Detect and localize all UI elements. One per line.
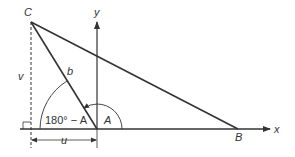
x-axis-label: x xyxy=(273,123,280,135)
right-angle-mark xyxy=(23,122,31,129)
base-u-label: u xyxy=(61,134,67,146)
side-b-label: b xyxy=(67,65,73,77)
vertex-c-label: C xyxy=(24,6,32,18)
angle-a-label: A xyxy=(103,114,111,126)
side-ca xyxy=(31,22,97,129)
y-axis-label: y xyxy=(93,6,101,18)
vertex-b-label: B xyxy=(235,131,242,143)
triangle-diagram: C y b v u 180° − A A B x xyxy=(0,0,295,157)
side-cb xyxy=(31,22,238,129)
height-v-label: v xyxy=(18,70,25,82)
supplement-angle-label: 180° − A xyxy=(45,114,88,126)
